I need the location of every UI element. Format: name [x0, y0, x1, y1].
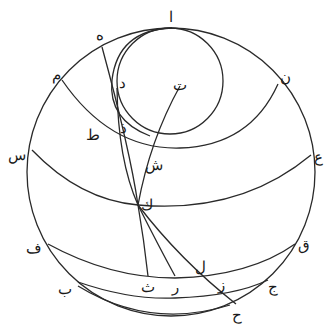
label-ayn: ع	[314, 148, 323, 166]
label-tha: ث	[141, 278, 155, 296]
label-mim: م	[52, 66, 61, 84]
label-sin: س	[8, 146, 26, 164]
label-dhal: ذ	[120, 119, 127, 137]
arc-sin-ayn	[32, 150, 311, 206]
diagram-canvas: ا ه م ن د ت ط ذ ش س ع ك ف ق ل ج ز ر ث ب …	[0, 0, 336, 326]
label-alif: ا	[169, 8, 173, 26]
label-tah: ط	[86, 126, 100, 144]
label-hah: ح	[232, 306, 242, 324]
label-zay: ز	[217, 276, 225, 294]
label-ha: ه	[96, 26, 104, 44]
label-fa: ف	[26, 239, 42, 257]
label-qaf: ق	[298, 236, 310, 254]
label-jim: ج	[268, 278, 278, 296]
label-dal: د	[119, 74, 126, 92]
label-lam: ل	[195, 258, 206, 276]
label-shin: ش	[145, 156, 163, 174]
line-dal-ra	[117, 88, 175, 276]
label-kaf: ك	[141, 196, 153, 214]
label-ra: ر	[171, 278, 179, 296]
inner-circle	[117, 28, 223, 134]
outer-circle	[27, 28, 315, 316]
label-nun: ن	[280, 68, 291, 86]
label-ba: ب	[58, 280, 72, 298]
line-ta-kaf	[138, 86, 180, 205]
arc-fa-qaf	[48, 244, 295, 278]
label-ta: ت	[173, 76, 187, 94]
